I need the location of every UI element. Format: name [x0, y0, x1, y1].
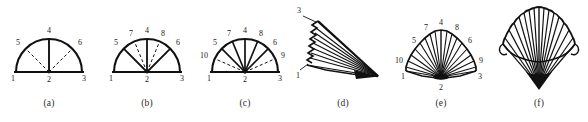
- spoke-6: [147, 49, 170, 72]
- label-e-9: 9: [479, 56, 483, 65]
- panel-b-drawing: 1 2 3 4 5 6 7 8: [98, 0, 196, 100]
- label-e-3: 3: [478, 72, 482, 81]
- panel-d-drawing: 3 1: [294, 0, 392, 100]
- label-a-6: 6: [78, 38, 82, 47]
- spoke-5-dashed: [26, 49, 49, 72]
- label-b-8: 8: [161, 29, 165, 38]
- label-a-1: 1: [11, 74, 15, 83]
- label-e-7: 7: [424, 23, 428, 32]
- label-c-10: 10: [200, 51, 208, 60]
- hub-point: [243, 70, 247, 74]
- caption-d: (d): [294, 98, 392, 108]
- label-b-5: 5: [114, 38, 118, 47]
- spoke-5: [124, 49, 147, 72]
- label-d-1: 1: [296, 71, 300, 80]
- label-b-4: 4: [145, 26, 149, 35]
- label-b-3: 3: [180, 74, 184, 83]
- label-e-4: 4: [439, 18, 443, 27]
- spoke-6: [245, 49, 268, 72]
- label-b-2: 2: [145, 75, 149, 84]
- label-c-3: 3: [278, 74, 282, 83]
- spoke-8-dashed: [147, 42, 160, 73]
- label-e-8: 8: [455, 23, 459, 32]
- hub-point: [48, 71, 51, 74]
- label-c-4: 4: [243, 26, 247, 35]
- hub-point: [145, 70, 148, 73]
- label-e-2: 2: [439, 83, 443, 92]
- label-c-1: 1: [207, 74, 211, 83]
- label-c-5: 5: [213, 38, 217, 47]
- label-c-7: 7: [227, 29, 231, 38]
- shell-pleats: [499, 7, 578, 90]
- label-e-1: 1: [401, 72, 405, 81]
- label-e-10: 10: [395, 56, 403, 65]
- label-d-3: 3: [297, 6, 301, 15]
- panel-a-drawing: 1 2 3 4 5 6: [0, 0, 98, 100]
- figure-strip: 1 2 3 4 5 6 (a) 1 2 3 4 5 6 7 8: [0, 0, 588, 122]
- fan-pleats-open: [406, 30, 476, 80]
- figure-panel-f: (f): [490, 0, 588, 122]
- leader-line-1: [300, 64, 308, 70]
- spoke-7-dashed: [134, 42, 147, 73]
- label-a-2: 2: [47, 75, 51, 84]
- label-a-5: 5: [16, 38, 20, 47]
- fan-hub: [433, 74, 449, 80]
- caption-e: (e): [392, 98, 490, 108]
- label-c-8: 8: [259, 29, 263, 38]
- label-e-6: 6: [468, 36, 472, 45]
- label-b-1: 1: [109, 74, 113, 83]
- caption-c: (c): [196, 98, 294, 108]
- label-c-2: 2: [243, 75, 247, 84]
- figure-panel-d: 3 1 (d): [294, 0, 392, 122]
- caption-a: (a): [0, 98, 98, 108]
- figure-panel-e: 1 2 3 4 5 6 7 8 9 10 (e): [392, 0, 490, 122]
- label-c-6: 6: [273, 38, 277, 47]
- figure-panel-a: 1 2 3 4 5 6 (a): [0, 0, 98, 122]
- label-c-9: 9: [281, 51, 285, 60]
- figure-panel-c: 1 2 3 4 5 6 7 8 9 10 (c): [196, 0, 294, 122]
- label-e-5: 5: [412, 36, 416, 45]
- pleat-spine: [307, 21, 318, 63]
- panel-e-drawing: 1 2 3 4 5 6 7 8 9 10: [392, 0, 490, 100]
- panel-c-drawing: 1 2 3 4 5 6 7 8 9 10: [196, 0, 294, 100]
- leader-line-3: [303, 16, 316, 22]
- spoke-5: [222, 49, 245, 72]
- fan-pleats-collapsed: [307, 21, 379, 79]
- figure-panel-b: 1 2 3 4 5 6 7 8 (b): [98, 0, 196, 122]
- caption-b: (b): [98, 98, 196, 108]
- caption-f: (f): [490, 98, 588, 108]
- label-a-3: 3: [82, 74, 86, 83]
- label-b-6: 6: [176, 38, 180, 47]
- label-b-7: 7: [129, 29, 133, 38]
- label-a-4: 4: [47, 26, 51, 35]
- panel-f-drawing: [490, 0, 588, 100]
- spoke-6-dashed: [49, 49, 72, 72]
